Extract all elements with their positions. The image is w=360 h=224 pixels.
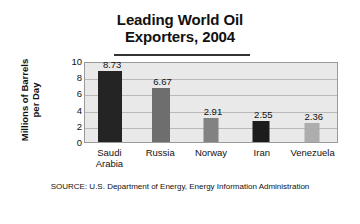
chart-title-line-2: Exporters, 2004 xyxy=(0,28,360,45)
x-axis-category-labels: SaudiArabiaRussiaNorwayIranVenezuela xyxy=(84,147,338,169)
bar[interactable] xyxy=(253,121,270,142)
bar[interactable] xyxy=(98,71,122,142)
bar-series: 8.736.672.912.552.36 xyxy=(85,63,337,142)
chart-title-line-1: Leading World Oil xyxy=(0,11,360,28)
bar-slot: 6.67 xyxy=(135,63,185,142)
x-category-label-line: Arabia xyxy=(84,158,135,169)
bar-value-label: 2.91 xyxy=(204,107,223,117)
y-tick-label: 6 xyxy=(77,89,82,99)
x-category-label: Venezuela xyxy=(287,147,338,169)
x-category-label-line: Norway xyxy=(186,147,237,158)
x-category-label-line: Russia xyxy=(135,147,186,158)
y-axis-tick-labels: 1086420 xyxy=(58,62,82,143)
bar[interactable] xyxy=(152,88,170,142)
source-note: SOURCE: U.S. Department of Energy, Energ… xyxy=(0,182,360,192)
chart-figure: Leading World Oil Exporters, 2004 Millio… xyxy=(0,0,360,224)
x-category-label-line: Iran xyxy=(236,147,287,158)
bar-value-label: 6.67 xyxy=(153,77,172,87)
bar-value-label: 2.55 xyxy=(254,110,272,120)
y-tick-label: 0 xyxy=(77,138,82,148)
x-category-label: Iran xyxy=(236,147,287,169)
y-axis-title-line-1: Millions of Barrels xyxy=(19,59,30,141)
chart-title: Leading World Oil Exporters, 2004 xyxy=(0,11,360,45)
bar[interactable] xyxy=(304,123,319,142)
y-axis-title-line-2: per Day xyxy=(30,59,41,141)
bar[interactable] xyxy=(204,118,219,142)
x-category-label: SaudiArabia xyxy=(84,147,135,169)
bar-slot: 2.91 xyxy=(186,63,236,142)
bar-slot: 2.36 xyxy=(287,63,337,142)
y-tick-label: 10 xyxy=(71,57,82,67)
plot-area: 8.736.672.912.552.36 xyxy=(84,62,338,143)
y-tick-label: 8 xyxy=(77,73,82,83)
x-category-label-line: Saudi xyxy=(84,147,135,158)
x-category-label-line: Venezuela xyxy=(287,147,338,158)
title-underline-rule xyxy=(114,54,250,56)
bar-slot: 8.73 xyxy=(85,63,135,142)
x-category-label: Russia xyxy=(135,147,186,169)
y-tick-label: 2 xyxy=(77,122,82,132)
bar-value-label: 2.36 xyxy=(305,112,324,122)
bar-value-label: 8.73 xyxy=(103,60,122,70)
y-tick-label: 4 xyxy=(77,106,82,116)
bar-slot: 2.55 xyxy=(236,63,286,142)
x-category-label: Norway xyxy=(186,147,237,169)
